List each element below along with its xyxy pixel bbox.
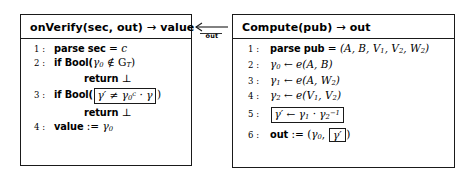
keyword-out: out (270, 129, 288, 140)
algorithm-box-compute: Compute(pub) → out 1 : parse pub = (A, B… (232, 14, 455, 168)
code-line: 4 : γ2 ← e(V1, V2) (233, 90, 454, 102)
line-code: value := γ0 (48, 121, 113, 133)
assign-arrow-glyph: ← (287, 108, 296, 120)
line-number: 3 : (21, 91, 48, 100)
line-code: γ1 ← e(A, W2) (262, 75, 340, 87)
keyword-value: value (54, 121, 83, 132)
group-gt: GT (118, 56, 131, 68)
arrow-glyph: → (336, 20, 346, 34)
connector-arrow-out: out (194, 22, 230, 46)
line-number: 1 : (233, 45, 262, 54)
gamma-zero: γ0 (93, 56, 104, 68)
neq-glyph: ≠ (110, 89, 119, 101)
gamma-two-inverse: γ2−1 (319, 108, 340, 120)
equals-glyph: = (109, 42, 118, 54)
keyword-if-bool: if Bool( (54, 57, 93, 68)
paren-close: ) (157, 88, 161, 100)
code-line: 5 : γ′ ← γ1 · γ2−1 (233, 106, 454, 122)
gamma-zero: γ0 (270, 58, 281, 70)
var-c: c (121, 42, 127, 54)
line-number: 3 : (233, 77, 262, 86)
line-code: out := (γ0, γ′) (262, 127, 350, 142)
gamma-zero: γ0 (311, 128, 322, 140)
code-line-return: return ⊥ (21, 73, 191, 84)
line-number: 2 : (233, 61, 262, 70)
parse-target: sec (84, 43, 105, 54)
code-line-return: return ⊥ (21, 107, 191, 118)
algorithm-header-onverify: onVerify(sec, out) → value (21, 15, 191, 39)
pub-tuple: (A, B, V1, V2, W2) (340, 42, 429, 54)
code-line: 6 : out := (γ0, γ′) (233, 127, 454, 142)
algorithm-body-onverify: 1 : parse sec = c 2 : if Bool(γ0 ∉ GT) r… (21, 39, 191, 134)
gamma-prime: γ′ (98, 89, 107, 101)
code-line: 2 : γ0 ← e(A, B) (233, 59, 454, 71)
highlighted-expression: γ′ ≠ γ0c · γ (94, 88, 157, 104)
assign-arrow-glyph: ← (284, 89, 293, 101)
highlighted-expression: γ′ ← γ1 · γ2−1 (271, 107, 344, 123)
algorithm-header-compute: Compute(pub) → out (233, 15, 454, 39)
line-code: if Bool(γ′ ≠ γ0c · γ) (48, 87, 161, 103)
comma-glyph: , (322, 128, 329, 140)
gamma-prime: γ′ (333, 129, 342, 141)
equals-glyph: = (328, 42, 337, 54)
keyword-parse: parse (54, 43, 84, 54)
gamma-zero: γ0 (103, 120, 114, 132)
bot-glyph: ⊥ (122, 72, 132, 84)
keyword-return: return (84, 107, 118, 118)
line-number: 5 : (233, 110, 262, 119)
line-number: 4 : (21, 123, 48, 132)
function-result: out (350, 21, 371, 34)
pairing-e: e(A, B) (296, 58, 332, 70)
code-line: 3 : γ1 ← e(A, W2) (233, 75, 454, 87)
line-number: 6 : (233, 131, 262, 140)
gamma: γ (146, 89, 152, 101)
line-code: parse sec = c (48, 43, 127, 54)
assign-glyph: := (87, 120, 99, 132)
gamma-zero-pow-c: γ0c (122, 89, 136, 101)
keyword-if-bool: if Bool( (54, 89, 93, 100)
line-number: 4 : (233, 92, 262, 101)
function-name: Compute (242, 21, 298, 34)
gamma-two: γ2 (270, 89, 281, 101)
gamma-one: γ1 (270, 74, 281, 86)
function-result: value (160, 21, 194, 34)
paren-close: ) (131, 56, 135, 68)
line-code: γ2 ← e(V1, V2) (262, 90, 341, 102)
function-args: (sec, out) (83, 21, 143, 34)
line-code: return ⊥ (48, 107, 132, 118)
gamma-one: γ1 (299, 108, 310, 120)
gamma-prime: γ′ (275, 108, 284, 120)
cdot-glyph: · (313, 108, 316, 120)
arrow-glyph: → (147, 20, 157, 34)
notin-glyph: ∉ (107, 56, 115, 68)
function-args: (pub) (298, 21, 332, 34)
code-line: 1 : parse pub = (A, B, V1, V2, W2) (233, 43, 454, 55)
function-name: onVerify (30, 21, 83, 34)
pairing-e: e(V1, V2) (296, 89, 341, 101)
keyword-parse-pub: parse pub (270, 43, 324, 54)
line-number: 1 : (21, 45, 48, 54)
line-code: if Bool(γ0 ∉ GT) (48, 57, 135, 69)
line-code: γ′ ← γ1 · γ2−1 (262, 106, 344, 122)
assign-arrow-glyph: ← (284, 74, 293, 86)
cdot-glyph: · (139, 89, 142, 101)
code-line: 4 : value := γ0 (21, 121, 191, 133)
bot-glyph: ⊥ (122, 106, 132, 118)
keyword-return: return (84, 73, 118, 84)
code-line: 2 : if Bool(γ0 ∉ GT) (21, 57, 191, 69)
pairing-e: e(A, W2) (296, 74, 340, 86)
code-line: 3 : if Bool(γ′ ≠ γ0c · γ) (21, 87, 191, 103)
line-number: 2 : (21, 59, 48, 68)
code-line: 1 : parse sec = c (21, 43, 191, 54)
algorithm-body-compute: 1 : parse pub = (A, B, V1, V2, W2) 2 : γ… (233, 39, 454, 142)
tuple-close: ) (346, 128, 350, 140)
algorithm-box-onverify: onVerify(sec, out) → value 1 : parse sec… (20, 14, 192, 166)
connector-label: out (194, 32, 230, 40)
highlighted-expression: γ′ (329, 128, 346, 143)
line-code: return ⊥ (48, 73, 132, 84)
line-code: parse pub = (A, B, V1, V2, W2) (262, 43, 429, 55)
line-code: γ0 ← e(A, B) (262, 59, 333, 71)
assign-arrow-glyph: ← (284, 58, 293, 70)
diagram-canvas: onVerify(sec, out) → value 1 : parse sec… (0, 0, 467, 178)
assign-glyph: := (291, 128, 303, 140)
